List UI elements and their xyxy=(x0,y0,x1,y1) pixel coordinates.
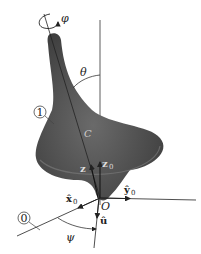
y0-axis-arrow xyxy=(100,198,130,199)
z0-axis-sub: 0 xyxy=(109,163,113,171)
spinning-top-diagram: φ θ 1 C z z 0 ŷ 0 x̂ 0 O û ψ 0 xyxy=(0,0,201,254)
z0-axis-label: z xyxy=(102,158,108,169)
x0-axis-sub: 0 xyxy=(73,198,77,206)
spin-arrow-icon xyxy=(39,14,58,29)
x0-axis-arrow xyxy=(78,198,100,208)
z-axis-label: z xyxy=(80,163,86,174)
u-axis-arrow xyxy=(97,198,99,218)
spin-angle-label: φ xyxy=(61,12,69,25)
u-axis-label: û xyxy=(100,215,107,226)
precession-arc xyxy=(58,218,96,229)
fixed-frame-callout: 0 xyxy=(18,212,40,230)
svg-text:1: 1 xyxy=(37,106,44,119)
x0-axis-label: x̂ xyxy=(66,193,73,204)
origin-label: O xyxy=(101,200,110,213)
nutation-angle-label: θ xyxy=(80,66,87,79)
y0-axis-label: ŷ xyxy=(123,184,131,195)
y0-axis-sub: 0 xyxy=(131,189,135,197)
precession-angle-label: ψ xyxy=(66,231,75,244)
center-of-mass-label: C xyxy=(84,128,92,139)
svg-text:0: 0 xyxy=(21,212,28,225)
